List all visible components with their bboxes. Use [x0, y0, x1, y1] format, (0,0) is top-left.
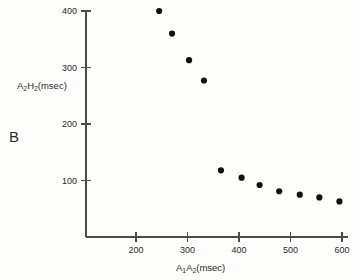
data-point — [156, 8, 162, 14]
figure-panel-b: B A2H2(msec) A1A2(msec) 1002003004002003… — [0, 0, 358, 280]
data-point — [276, 188, 282, 194]
x-tick-label: 200 — [128, 245, 143, 255]
data-point — [186, 57, 192, 63]
data-point — [336, 198, 342, 204]
x-tick-label: 400 — [231, 245, 246, 255]
data-point — [316, 194, 322, 200]
x-tick-label: 600 — [334, 245, 349, 255]
data-point — [297, 192, 303, 198]
x-tick-label: 500 — [283, 245, 298, 255]
y-tick-label: 100 — [62, 176, 77, 186]
y-tick-label: 200 — [62, 119, 77, 129]
scatter-plot-canvas: 100200300400200300400500600 — [0, 0, 358, 280]
data-point — [257, 182, 263, 188]
x-tick-label: 300 — [180, 245, 195, 255]
data-point — [238, 175, 244, 181]
y-tick-label: 400 — [62, 6, 77, 16]
data-point — [169, 30, 175, 36]
y-tick-label: 300 — [62, 63, 77, 73]
data-point — [201, 77, 207, 83]
data-point — [218, 167, 224, 173]
